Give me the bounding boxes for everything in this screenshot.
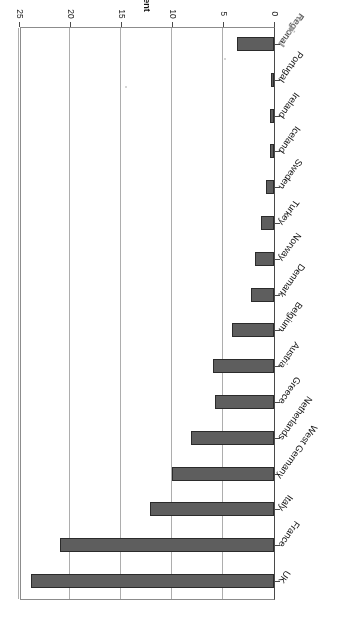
bar-row — [19, 216, 274, 230]
bar-row — [19, 73, 274, 87]
bar-row — [19, 180, 274, 194]
scan-speck — [125, 86, 127, 88]
bar-row — [19, 467, 274, 481]
bar-turkey — [261, 216, 274, 230]
bar-france — [60, 538, 274, 552]
bar-greece — [215, 395, 274, 409]
bar-chart-figure: 0510152025 UKFranceItalyWest GermanyNeth… — [0, 0, 344, 618]
bar-row — [19, 37, 274, 51]
bar-row — [19, 109, 274, 123]
bar-iceland — [270, 144, 274, 158]
bar-row — [19, 288, 274, 302]
bar-series — [21, 28, 274, 599]
bar-west-germany — [172, 467, 274, 481]
plot-area — [20, 27, 275, 600]
bar-row — [19, 574, 274, 588]
bar-regional — [237, 37, 274, 51]
value-tick-label-5: 5 — [219, 4, 229, 24]
bar-sweden — [266, 180, 274, 194]
axis-title-per-cent: Per cent — [143, 0, 153, 19]
value-tick-label-0: 0 — [270, 4, 280, 24]
value-tick-label-20: 20 — [66, 4, 76, 24]
bar-row — [19, 538, 274, 552]
bar-uk — [31, 574, 274, 588]
bar-italy — [150, 502, 274, 516]
bar-portugal — [271, 73, 274, 87]
bar-denmark — [251, 288, 274, 302]
scanned-page: 0510152025 UKFranceItalyWest GermanyNeth… — [0, 0, 344, 618]
bar-ireland — [270, 109, 274, 123]
value-tick-label-10: 10 — [168, 4, 178, 24]
bar-row — [19, 144, 274, 158]
bar-row — [19, 323, 274, 337]
bar-austria — [213, 359, 274, 373]
value-tick-label-15: 15 — [117, 4, 127, 24]
value-tick-label-25: 25 — [15, 4, 25, 24]
bar-netherlands — [191, 431, 274, 445]
bar-belgium — [232, 323, 274, 337]
bar-row — [19, 252, 274, 266]
bar-row — [19, 431, 274, 445]
bar-row — [19, 502, 274, 516]
scan-speck — [224, 58, 226, 60]
bar-row — [19, 359, 274, 373]
bar-row — [19, 395, 274, 409]
bar-norway — [255, 252, 274, 266]
